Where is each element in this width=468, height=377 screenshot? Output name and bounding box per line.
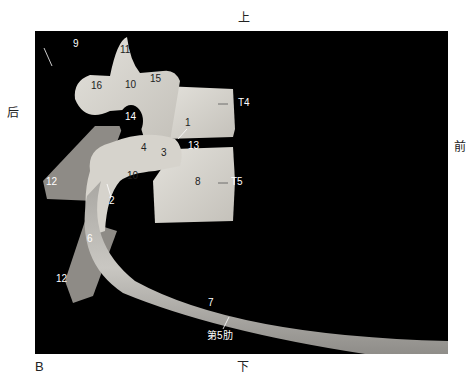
label-10-lower: 10	[127, 171, 138, 181]
label-fifth-rib: 第5肋	[207, 331, 233, 341]
label-T5: T5	[231, 177, 243, 187]
label-4: 4	[141, 143, 147, 153]
orientation-left-label: 后	[7, 107, 19, 119]
label-9: 9	[73, 39, 79, 49]
label-14: 14	[125, 112, 136, 122]
label-2: 2	[109, 196, 115, 206]
label-16: 16	[91, 81, 102, 91]
orientation-right-label: 前	[454, 141, 466, 153]
label-6: 6	[87, 234, 93, 244]
orientation-bottom-label: 下	[237, 361, 249, 373]
figure-letter: B	[35, 359, 44, 374]
label-13: 13	[188, 141, 199, 151]
label-11: 11	[120, 45, 130, 55]
label-T4: T4	[238, 98, 250, 108]
label-7: 7	[208, 298, 214, 308]
label-15: 15	[150, 74, 161, 84]
label-12-lower: 12	[56, 274, 67, 284]
label-12-upper: 12	[46, 177, 57, 187]
label-1: 1	[185, 118, 191, 128]
lower-foramen	[120, 189, 147, 227]
orientation-top-label: 上	[238, 12, 250, 24]
label-10-upper: 10	[125, 80, 136, 90]
label-8: 8	[195, 177, 201, 187]
anatomy-photo: 9 11 16 10 15 T4 14 1 4 3 13 12 10 8 T5 …	[35, 31, 448, 354]
label-3: 3	[161, 148, 167, 158]
